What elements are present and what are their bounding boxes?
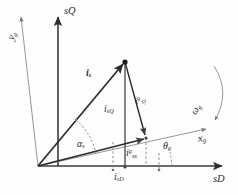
axis-label-sd: sD <box>213 174 225 185</box>
point-vector-tip <box>122 59 127 64</box>
diagram-canvas <box>0 0 238 195</box>
vector-label-is: is <box>86 68 91 79</box>
axis-label-sq: sQ <box>64 6 76 17</box>
angle-theta-arc <box>170 152 172 166</box>
point-isd-foot <box>124 166 127 169</box>
angle-label-alpha-s: αs <box>77 139 85 150</box>
point-theta-foot <box>158 169 161 172</box>
component-isq-sub: sQ <box>107 107 114 114</box>
point-alpha-arc-end <box>75 119 77 121</box>
component-label-isq: isQ <box>104 104 114 115</box>
angle-alpha-sub: s <box>82 142 84 149</box>
component-isx-sub: sx <box>132 152 137 159</box>
vector-is-line <box>38 64 123 166</box>
vector-diagram-figure: sQ sD yg xg ωg is isQ isD igsx igsy αs θ… <box>0 0 238 195</box>
angle-label-theta-g: θg <box>163 141 171 152</box>
angle-theta-sub: g <box>168 144 171 151</box>
axis-yg-line <box>21 17 38 166</box>
component-label-isx: igsx <box>126 148 137 159</box>
component-label-isd: isD <box>114 172 124 183</box>
point-isy-foot <box>145 137 148 140</box>
vector-is-sub: s <box>89 71 91 78</box>
omega-g-arc <box>214 66 223 120</box>
component-isd-sub: sD <box>117 175 124 182</box>
